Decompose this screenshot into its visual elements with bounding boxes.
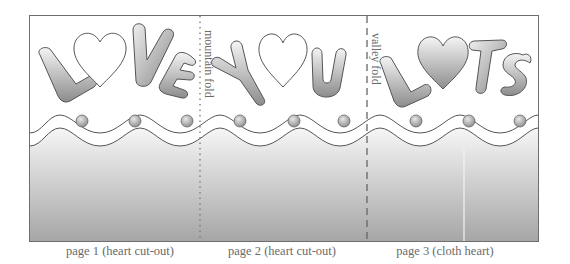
mountain-fold-label: mountain fold [203,30,215,98]
valley-fold-label: valley fold [370,33,382,85]
card-template-diagram [0,0,570,264]
page-2-caption: page 2 (heart cut-out) [212,244,352,259]
page-1-caption: page 1 (heart cut-out) [55,244,185,259]
page-3-caption: page 3 (cloth heart) [375,244,515,259]
